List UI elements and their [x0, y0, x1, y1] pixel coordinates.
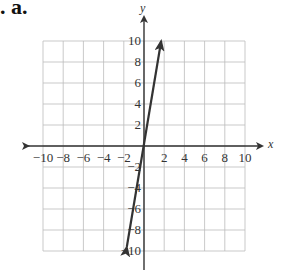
y-axis-label: y [139, 1, 146, 15]
y-tick-label: −4 [127, 180, 141, 195]
y-tick-label: 2 [135, 117, 142, 132]
x-tick-label: 2 [161, 150, 168, 165]
x-tick-label: 8 [222, 150, 229, 165]
x-tick-label: −8 [56, 150, 70, 165]
x-tick-label: −4 [97, 150, 111, 165]
x-tick-label: 4 [181, 150, 188, 165]
y-tick-label: 10 [128, 33, 141, 48]
x-axis-label: x [267, 137, 274, 151]
y-tick-label: 6 [135, 75, 142, 90]
x-tick-label: −6 [76, 150, 90, 165]
y-tick-label: 8 [135, 54, 142, 69]
x-tick-label: 10 [239, 150, 252, 165]
x-tick-label: −10 [33, 150, 53, 165]
coordinate-plane: x y −10−8−6−4−2246810 108642−2−4−6−8−10 [0, 0, 282, 270]
x-tick-label: 6 [201, 150, 208, 165]
y-tick-label: 4 [135, 96, 142, 111]
y-tick-label: −10 [121, 243, 141, 258]
